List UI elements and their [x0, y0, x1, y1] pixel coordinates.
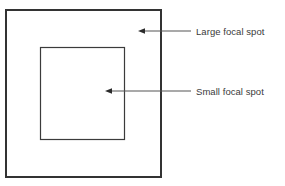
large-focal-spot-label: Large focal spot — [196, 26, 264, 37]
large-focal-spot-square — [6, 10, 161, 177]
small-focal-spot-label: Small focal spot — [196, 86, 264, 97]
focal-spot-diagram: Large focal spot Small focal spot — [0, 0, 285, 186]
small-focal-spot-arrowhead-icon — [105, 88, 112, 94]
large-focal-spot-arrowhead-icon — [138, 28, 145, 34]
